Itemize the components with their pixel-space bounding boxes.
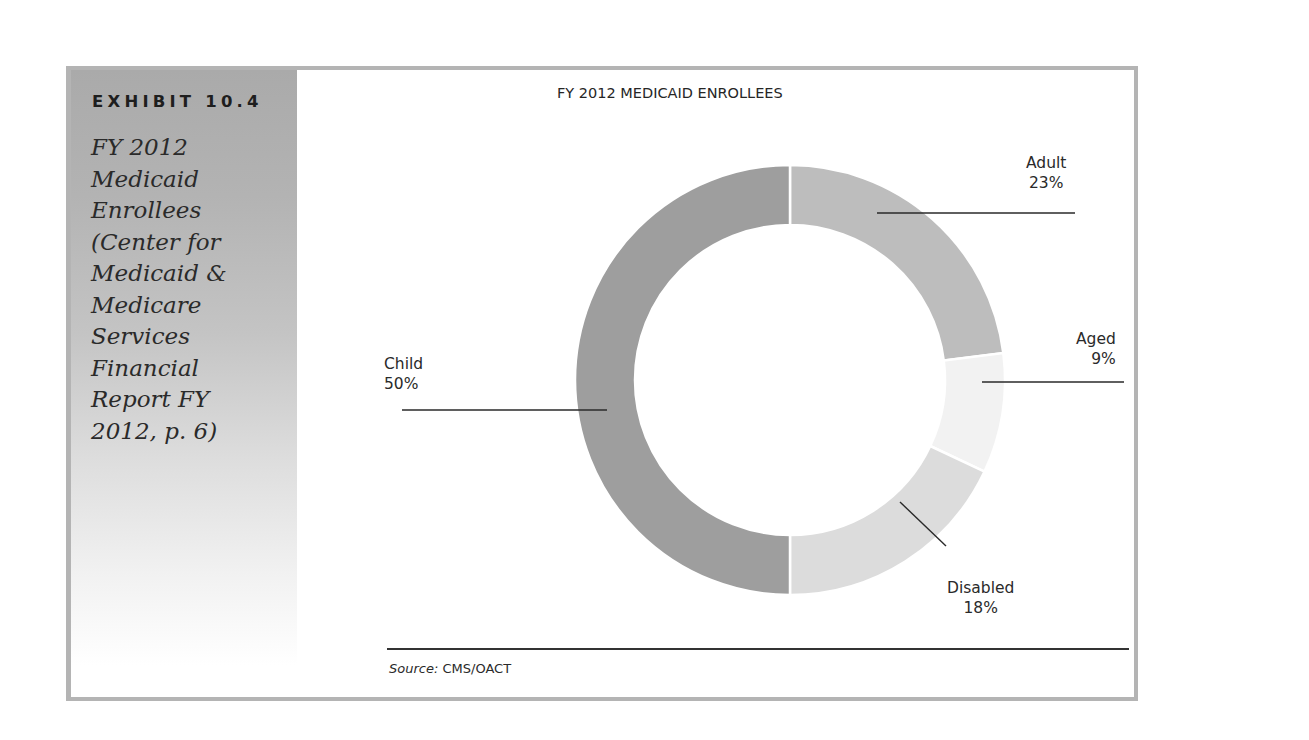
- label-adult-pct: 23%: [1026, 173, 1066, 193]
- label-aged: Aged 9%: [1076, 329, 1116, 369]
- leader-lines: [402, 213, 1124, 546]
- label-adult: Adult 23%: [1026, 153, 1066, 193]
- donut-slice-adult: [790, 165, 1003, 361]
- label-aged-name: Aged: [1076, 329, 1116, 349]
- source-divider: [387, 648, 1129, 650]
- donut-slice-disabled: [790, 446, 985, 595]
- label-disabled-name: Disabled: [947, 578, 1014, 598]
- donut-slices: [575, 165, 1005, 595]
- source-prefix: Source:: [389, 661, 438, 676]
- label-disabled: Disabled 18%: [947, 578, 1014, 618]
- label-child: Child 50%: [384, 354, 423, 394]
- label-adult-name: Adult: [1026, 153, 1066, 173]
- source-note: Source: CMS/OACT: [389, 661, 511, 676]
- source-text: CMS/OACT: [438, 661, 511, 676]
- label-child-name: Child: [384, 354, 423, 374]
- exhibit-frame: EXHIBIT 10.4 FY 2012 Medicaid Enrollees …: [66, 66, 1138, 701]
- label-disabled-pct: 18%: [947, 598, 1014, 618]
- donut-slice-child: [575, 165, 790, 595]
- label-child-pct: 50%: [384, 374, 423, 394]
- label-aged-pct: 9%: [1076, 349, 1116, 369]
